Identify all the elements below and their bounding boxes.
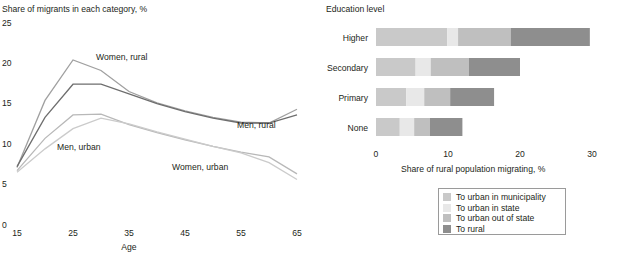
bar-segment <box>424 88 450 106</box>
line-chart-annotation: Men, urban <box>57 142 101 152</box>
line-chart-x-tick: 25 <box>68 228 78 238</box>
bar-chart-x-tick: 30 <box>587 149 597 159</box>
legend-swatch-icon <box>443 214 451 222</box>
bar-segment <box>414 118 430 136</box>
bar-segment <box>416 58 431 76</box>
legend-label: To urban out of state <box>456 213 534 223</box>
bar-segment <box>447 28 458 46</box>
legend-item: To rural <box>443 224 561 235</box>
bar-segment <box>400 118 414 136</box>
line-chart-y-tick: 15 <box>2 98 12 108</box>
line-chart-y-axis-title: Share of migrants in each category, % <box>2 4 147 14</box>
legend-item: To urban in state <box>443 203 561 214</box>
bar-segment <box>406 88 424 106</box>
bar-chart-x-axis-title: Share of rural population migrating, % <box>401 164 546 174</box>
line-chart-y-tick: 20 <box>2 58 12 68</box>
bar-segment <box>376 118 400 136</box>
bar-chart-x-tick: 0 <box>374 149 379 159</box>
bar-segment <box>450 88 494 106</box>
line-chart-annotation: Men, rural <box>237 120 276 130</box>
bar-chart-title: Education level <box>326 4 384 14</box>
bar-segment <box>431 58 469 76</box>
line-chart-y-tick: 25 <box>2 18 12 28</box>
bar-segment <box>430 118 462 136</box>
line-chart-y-tick: 5 <box>2 179 7 189</box>
bar-category-label: Secondary <box>327 63 369 73</box>
bar-chart-panel: Education levelHigherSecondaryPrimaryNon… <box>320 0 626 255</box>
line-chart-annotation: Women, urban <box>172 162 228 172</box>
bar-segment <box>376 28 447 46</box>
bar-segment <box>376 58 416 76</box>
bar-chart-svg: Education levelHigherSecondaryPrimaryNon… <box>320 0 626 185</box>
bar-category-label: Higher <box>343 33 368 43</box>
line-chart-x-axis-title: Age <box>121 242 137 252</box>
legend-item: To urban in municipality <box>443 192 561 203</box>
line-chart-y-tick: 0 <box>2 220 7 230</box>
bar-segment <box>469 58 520 76</box>
line-chart-x-tick: 15 <box>12 228 22 238</box>
bar-chart-legend: To urban in municipalityTo urban in stat… <box>438 188 566 235</box>
line-chart-x-tick: 35 <box>124 228 134 238</box>
bar-segment <box>458 28 511 46</box>
bar-chart-x-tick: 20 <box>515 149 525 159</box>
line-chart-x-tick: 65 <box>292 228 302 238</box>
bar-chart-x-tick: 10 <box>443 149 453 159</box>
line-chart-svg: Share of migrants in each category, %252… <box>0 0 320 255</box>
legend-label: To rural <box>456 224 485 234</box>
line-chart-y-tick: 10 <box>2 139 12 149</box>
legend-item: To urban out of state <box>443 213 561 224</box>
line-chart-x-tick: 55 <box>236 228 246 238</box>
line-chart-annotation: Women, rural <box>96 52 148 62</box>
legend-swatch-icon <box>443 225 451 233</box>
bar-segment <box>511 28 590 46</box>
bar-category-label: Primary <box>338 93 368 103</box>
bar-segment <box>376 88 406 106</box>
line-chart-panel: Share of migrants in each category, %252… <box>0 0 320 255</box>
legend-swatch-icon <box>443 193 451 201</box>
line-chart-x-tick: 45 <box>180 228 190 238</box>
legend-label: To urban in municipality <box>456 192 546 202</box>
legend-swatch-icon <box>443 204 451 212</box>
bar-category-label: None <box>347 123 368 133</box>
legend-label: To urban in state <box>456 203 520 213</box>
